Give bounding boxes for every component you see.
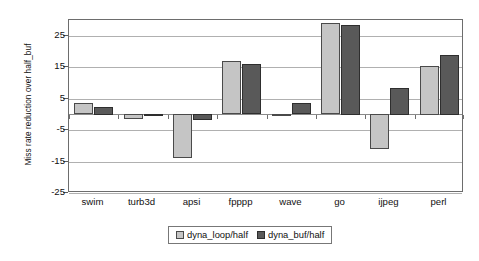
y-axis-tick-label: -5 (56, 124, 65, 134)
y-axis-title: Miss rate reduction over half_buf (24, 15, 33, 195)
x-axis-tick (415, 115, 416, 119)
x-axis-label-apsi: apsi (167, 196, 216, 207)
light-gray-swatch-icon (176, 231, 184, 239)
y-axis-tick-label: -25 (51, 187, 65, 197)
plot-inner (69, 20, 462, 191)
gridline (69, 36, 462, 37)
bar-perl-series0 (420, 66, 439, 115)
x-axis-tick (463, 115, 464, 119)
bar-wave-series0 (272, 114, 291, 116)
x-axis-tick (69, 115, 70, 119)
bar-swim-series1 (94, 107, 113, 115)
x-axis-label-fpppp: fpppp (216, 196, 265, 207)
chart-legend: dyna_loop/half dyna_buf/half (168, 226, 332, 244)
bar-turb3d-series1 (144, 114, 163, 116)
x-axis-tick (365, 115, 366, 119)
legend-label: dyna_buf/half (268, 229, 324, 240)
bar-ijpeg-series0 (370, 114, 389, 149)
x-axis-tick (217, 115, 218, 119)
bar-turb3d-series0 (124, 114, 143, 119)
x-axis-label-ijpeg: ijpeg (364, 196, 413, 207)
bar-apsi-series0 (173, 114, 192, 158)
y-axis-tick-label: -15 (51, 156, 65, 166)
x-axis-label-swim: swim (68, 196, 117, 207)
gridline (69, 130, 462, 131)
x-axis-label-perl: perl (414, 196, 463, 207)
x-axis-label-turb3d: turb3d (117, 196, 166, 207)
bar-fpppp-series1 (242, 64, 261, 114)
bar-wave-series1 (292, 103, 311, 114)
dark-gray-swatch-icon (257, 231, 265, 239)
legend-label: dyna_loop/half (187, 229, 248, 240)
x-axis-label-go: go (315, 196, 364, 207)
bar-swim-series0 (74, 103, 93, 114)
bar-perl-series1 (440, 55, 459, 115)
gridline (69, 193, 462, 194)
bar-ijpeg-series1 (390, 88, 409, 115)
legend-item-dyna-loop-half: dyna_loop/half (176, 229, 248, 240)
gridline (69, 67, 462, 68)
y-axis-tick-label: 25 (54, 30, 65, 40)
bar-chart: Miss rate reduction over half_buf 25155-… (0, 0, 479, 261)
bar-fpppp-series0 (222, 61, 241, 114)
x-axis-tick (118, 115, 119, 119)
legend-item-dyna-buf-half: dyna_buf/half (257, 229, 324, 240)
x-axis-tick (168, 115, 169, 119)
plot-area (68, 19, 463, 192)
bar-apsi-series1 (193, 114, 212, 120)
gridline (69, 162, 462, 163)
y-axis-tick-label: 5 (60, 93, 65, 103)
bar-go-series1 (341, 25, 360, 115)
x-axis-tick (316, 115, 317, 119)
y-axis-tick-label: 15 (54, 61, 65, 71)
x-axis-label-wave: wave (266, 196, 315, 207)
bar-go-series0 (321, 23, 340, 114)
x-axis-tick (267, 115, 268, 119)
